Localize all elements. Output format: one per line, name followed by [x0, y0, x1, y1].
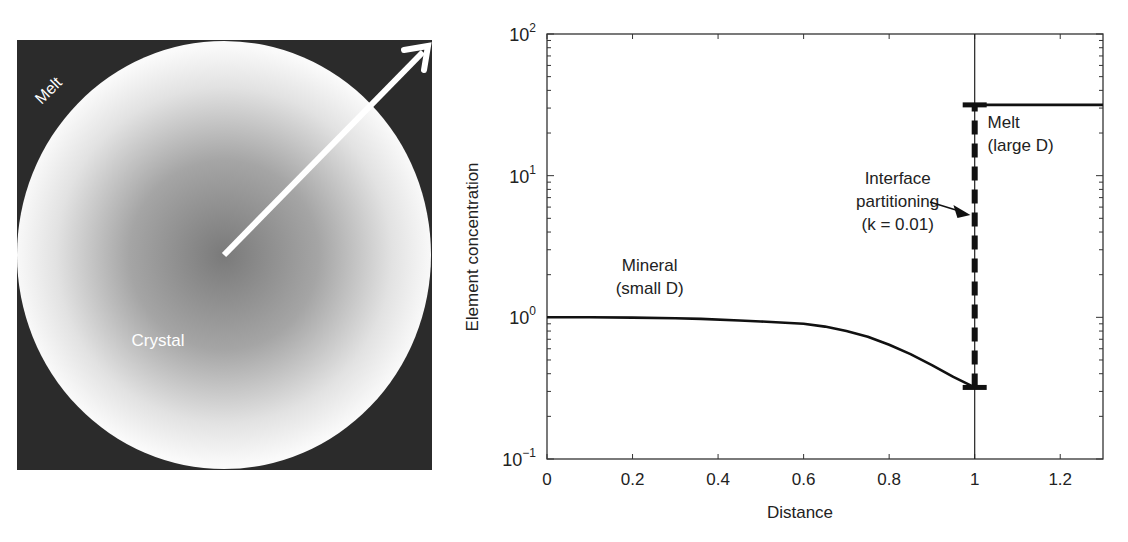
y-axis-label: Element concentration — [463, 162, 482, 331]
annotation-mineral-line: Mineral — [622, 256, 678, 275]
x-axis-label: Distance — [767, 503, 833, 522]
y-tick-label: 102 — [509, 21, 536, 45]
x-tick-label: 0 — [542, 470, 551, 489]
annotation-mineral-line: (small D) — [616, 279, 684, 298]
annotation-arrow-shaft — [930, 202, 962, 212]
x-tick-label: 1 — [970, 470, 979, 489]
annotation-interface-line: Interface — [865, 169, 931, 188]
x-tick-label: 0.8 — [877, 470, 901, 489]
x-tick-label: 0.2 — [621, 470, 645, 489]
annotation-melt-line: (large D) — [988, 136, 1054, 155]
annotation-arrow-head-icon — [953, 205, 970, 218]
x-tick-label: 0.4 — [706, 470, 730, 489]
x-tick-label: 0.6 — [792, 470, 816, 489]
annotation-interface-line: (k = 0.01) — [862, 215, 934, 234]
series-mineral-line — [547, 317, 975, 387]
y-tick-label: 10−1 — [502, 446, 536, 470]
x-tick-label: 1.2 — [1048, 470, 1072, 489]
y-tick-label: 100 — [509, 304, 536, 328]
crystal-label: Crystal — [132, 331, 185, 350]
plot-frame — [547, 34, 1103, 459]
annotation-melt-line: Melt — [988, 113, 1020, 132]
y-tick-label: 101 — [509, 163, 536, 187]
annotation-interface-line: partitioning — [856, 192, 939, 211]
crystal-melt-schematic: Melt Crystal — [0, 0, 450, 542]
